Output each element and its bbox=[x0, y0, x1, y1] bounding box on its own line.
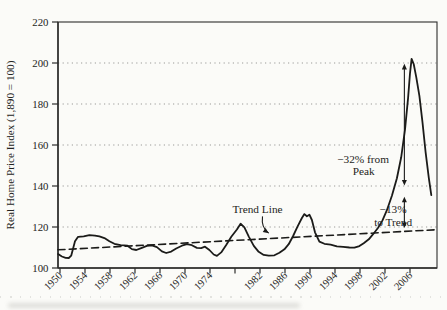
x-tick-label-2002: 2002 bbox=[367, 270, 390, 293]
peak-to-140-arrow-head-top bbox=[402, 64, 407, 70]
scan-artifact-dots bbox=[0, 296, 447, 298]
trend-drop-label-line-1: −13% bbox=[380, 203, 408, 215]
peak-to-140-arrow-head-bottom bbox=[402, 180, 407, 186]
trend-line-label: Trend Line bbox=[232, 203, 282, 215]
y-tick-label-160: 160 bbox=[32, 139, 48, 151]
x-tick-label-1974: 1974 bbox=[192, 269, 215, 292]
x-tick-label-1970: 1970 bbox=[167, 270, 190, 293]
scanned-page: 1001201401601802002201950195419581962196… bbox=[0, 0, 447, 310]
x-tick-label-1954: 1954 bbox=[67, 269, 90, 292]
y-tick-label-100: 100 bbox=[32, 262, 48, 274]
y-tick-label-120: 120 bbox=[32, 221, 48, 233]
trend-line-pointer-arrow-head bbox=[263, 228, 269, 233]
y-tick-label-200: 200 bbox=[32, 57, 48, 69]
x-tick-label-1966: 1966 bbox=[142, 270, 165, 293]
peak-drop-label-line-1: −32% from bbox=[337, 153, 389, 165]
x-tick-label-1982: 1982 bbox=[242, 270, 265, 293]
x-tick-label-1994: 1994 bbox=[317, 269, 340, 292]
real-home-price-chart: 1001201401601802002201950195419581962196… bbox=[0, 0, 447, 310]
y-tick-label-140: 140 bbox=[32, 180, 48, 192]
peak-drop-label-line-2: Peak bbox=[353, 165, 375, 177]
x-tick-label-2006: 2006 bbox=[392, 270, 415, 293]
x-tick-label-1958: 1958 bbox=[92, 270, 115, 293]
140-to-trend-arrow-head-top bbox=[402, 197, 407, 203]
trend-drop-label-line-2: to Trend bbox=[374, 216, 412, 228]
y-tick-label-220: 220 bbox=[32, 16, 48, 28]
x-tick-label-1962: 1962 bbox=[117, 270, 140, 293]
y-axis-title: Real Home Price Index (1,890 = 100) bbox=[4, 60, 17, 229]
x-tick-label-1998: 1998 bbox=[342, 270, 365, 293]
x-tick-label-1990: 1990 bbox=[292, 270, 315, 293]
x-tick-label-1986: 1986 bbox=[267, 270, 290, 293]
cropped-caption-fragment bbox=[8, 303, 300, 308]
y-tick-label-180: 180 bbox=[32, 98, 48, 110]
